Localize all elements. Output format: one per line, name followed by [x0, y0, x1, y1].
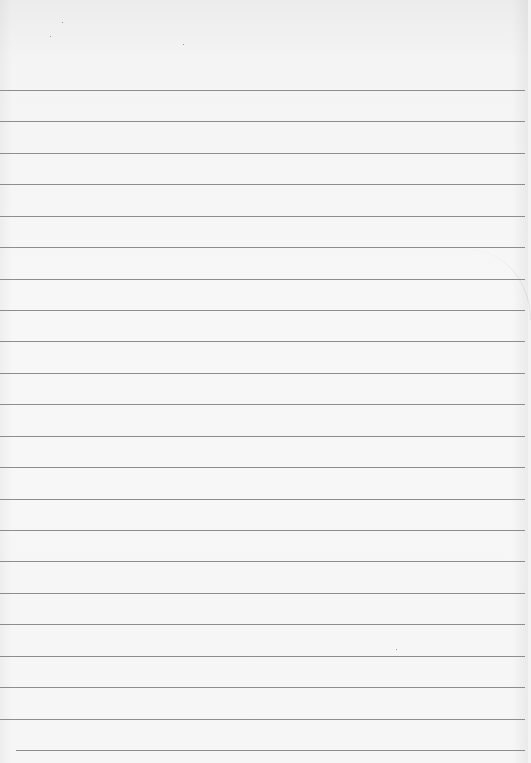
paper-speck	[183, 44, 184, 45]
paper-speck	[396, 649, 397, 650]
ruled-line	[0, 593, 525, 594]
ruled-line	[0, 499, 525, 500]
paper-speck	[62, 22, 63, 23]
ruled-line	[0, 121, 525, 122]
ruled-line	[0, 216, 525, 217]
ruled-line	[0, 656, 525, 657]
ruled-line	[0, 530, 525, 531]
ruled-line	[0, 341, 525, 342]
ruled-line	[0, 310, 525, 311]
ruled-line	[0, 436, 525, 437]
ruled-line	[0, 467, 525, 468]
paper-speck	[50, 36, 51, 37]
ruled-line	[0, 404, 525, 405]
ruled-line	[0, 247, 525, 248]
ruled-line	[16, 750, 525, 751]
ruled-line	[0, 90, 525, 91]
ruled-line	[0, 624, 525, 625]
ruled-line	[0, 184, 525, 185]
ruled-line	[0, 153, 525, 154]
ruled-line	[0, 373, 525, 374]
ruled-line	[0, 561, 525, 562]
ruled-line	[0, 687, 525, 688]
ruled-line	[0, 279, 525, 280]
ruled-line	[0, 719, 525, 720]
